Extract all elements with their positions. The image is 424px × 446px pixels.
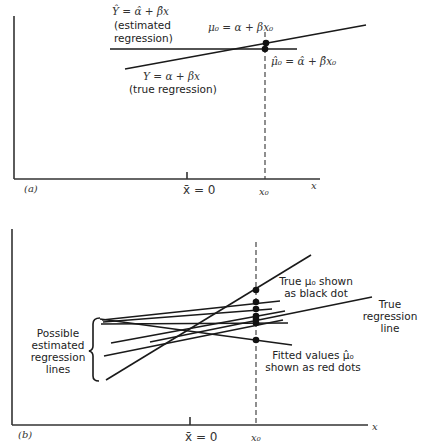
true-mu-caption-1: True μ₀ shown bbox=[278, 275, 353, 287]
panel-a: Ŷ = α̂ + β̂x (estimated regression) Y = … bbox=[14, 4, 366, 197]
true-line-caption-3: line bbox=[381, 322, 400, 334]
regression-figure: Ŷ = α̂ + β̂x (estimated regression) Y = … bbox=[0, 0, 424, 446]
panel-a-true-caption: (true regression) bbox=[129, 83, 217, 95]
bracket-caption-1: Possible bbox=[37, 327, 79, 339]
panel-a-true-equation: Y = α + βx bbox=[143, 70, 200, 82]
panel-b-x0-label: x₀ bbox=[251, 432, 261, 443]
panel-a-x-axis-label: x bbox=[311, 180, 317, 191]
bracket-caption-2: estimated bbox=[32, 339, 85, 351]
panel-a-label: (a) bbox=[24, 183, 38, 194]
true-mu-caption-2: as black dot bbox=[284, 287, 348, 299]
fitted-value-dot bbox=[253, 320, 260, 327]
panel-a-true-mu-dot bbox=[263, 40, 270, 47]
panel-a-estimated-caption-1: (estimated bbox=[114, 19, 171, 31]
panel-a-fitted-mu-dot bbox=[262, 46, 269, 53]
panel-b-xbar-label: x̄ = 0 bbox=[185, 430, 217, 444]
panel-b-x-axis-label: x bbox=[372, 421, 378, 432]
fitted-caption-2: shown as red dots bbox=[265, 361, 361, 373]
fitted-value-dot bbox=[253, 306, 260, 313]
fitted-value-dot bbox=[253, 299, 260, 306]
panel-a-mu0-equation: μ₀ = α + βx₀ bbox=[208, 21, 274, 33]
fitted-caption-1: Fitted values μ̂₀ bbox=[272, 349, 353, 361]
panel-a-estimated-caption-2: regression) bbox=[114, 32, 173, 44]
panel-b-bracket bbox=[89, 318, 100, 381]
bracket-caption-4: lines bbox=[46, 363, 70, 375]
bracket-caption-3: regression bbox=[31, 351, 86, 363]
true-line-caption-2: regression bbox=[363, 310, 418, 322]
panel-b-label: (b) bbox=[18, 429, 32, 440]
panel-a-x0-label: x₀ bbox=[259, 186, 269, 197]
panel-b: Possible estimated regression lines True… bbox=[12, 229, 417, 444]
true-line-caption-1: True bbox=[378, 298, 401, 310]
panel-a-xbar-label: x̄ = 0 bbox=[183, 183, 215, 197]
panel-a-muhat0-equation: μ̂₀ = α̂ + β̂x₀ bbox=[271, 55, 337, 67]
fitted-value-dot bbox=[253, 337, 260, 344]
fitted-value-dot bbox=[253, 287, 260, 294]
panel-a-estimated-equation: Ŷ = α̂ + β̂x bbox=[112, 4, 169, 17]
